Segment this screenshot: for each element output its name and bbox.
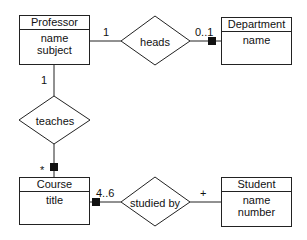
aggregation-marker-course xyxy=(50,163,58,171)
attribute-name: name xyxy=(222,194,291,206)
multiplicity-professor-heads: 1 xyxy=(103,26,109,38)
multiplicity-student-studied-by: + xyxy=(200,187,206,199)
attribute-name: name xyxy=(20,32,89,44)
relationship-label-studied-by: studied by xyxy=(130,197,180,209)
entity-attributes-student: name number xyxy=(222,192,291,218)
attribute-subject: subject xyxy=(20,44,89,56)
multiplicity-department-heads: 0..1 xyxy=(195,26,213,38)
entity-student: Student name number xyxy=(221,177,292,227)
entity-attributes-department: name xyxy=(222,32,291,46)
multiplicity-professor-teaches: 1 xyxy=(41,74,47,86)
entity-department: Department name xyxy=(221,17,292,65)
aggregation-marker-course-right xyxy=(92,198,100,206)
entity-attributes-professor: name subject xyxy=(20,30,89,56)
relationship-label-teaches: teaches xyxy=(36,115,75,127)
entity-course: Course title xyxy=(19,177,90,225)
relationship-label-heads: heads xyxy=(140,36,170,48)
entity-title-student: Student xyxy=(222,178,291,192)
entity-title-course: Course xyxy=(20,178,89,192)
attribute-name: name xyxy=(222,34,291,46)
entity-title-professor: Professor xyxy=(20,16,89,30)
entity-title-department: Department xyxy=(222,18,291,32)
multiplicity-course-teaches: * xyxy=(40,164,44,176)
multiplicity-course-studied-by: 4..6 xyxy=(96,187,114,199)
aggregation-marker-department xyxy=(208,37,216,45)
entity-professor: Professor name subject xyxy=(19,15,90,65)
attribute-number: number xyxy=(222,206,291,218)
entity-attributes-course: title xyxy=(20,192,89,206)
attribute-title: title xyxy=(20,194,89,206)
